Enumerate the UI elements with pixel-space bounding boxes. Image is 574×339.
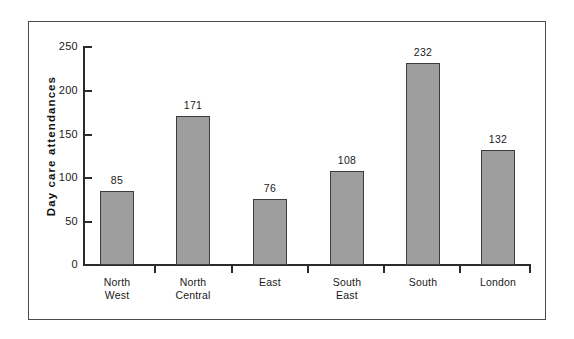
y-tick-100	[83, 177, 92, 179]
y-tick-label-200: 200	[44, 85, 78, 96]
x-label-north-central: North Central	[166, 276, 220, 302]
y-tick-label-250: 250	[44, 41, 78, 52]
x-tick-sep-3	[307, 264, 309, 273]
y-axis-line	[83, 47, 85, 266]
x-tick-sep-end	[529, 264, 531, 273]
bar-value-east: 76	[248, 183, 292, 194]
bar-south[interactable]	[406, 63, 440, 265]
bar-north-central[interactable]	[176, 116, 210, 265]
x-label-north-west-line1: North	[92, 276, 142, 289]
bar-value-north-west: 85	[95, 175, 139, 186]
x-label-south-line1: South	[398, 276, 448, 289]
y-axis-title: Day care attendances	[45, 51, 57, 241]
bar-value-north-central: 171	[171, 100, 215, 111]
x-label-south: South	[398, 276, 448, 289]
bar-south-east[interactable]	[330, 171, 364, 265]
y-tick-label-150: 150	[44, 129, 78, 140]
bar-north-west[interactable]	[100, 191, 134, 265]
bar-value-london: 132	[476, 134, 520, 145]
y-tick-label-50: 50	[44, 216, 78, 227]
y-tick-label-0: 0	[44, 259, 78, 270]
x-label-north-central-line1: North	[166, 276, 220, 289]
y-tick-50	[83, 221, 92, 223]
x-tick-sep-5	[459, 264, 461, 273]
x-label-east-line1: East	[245, 276, 295, 289]
plot-area: Day care attendances 0 50 100 150 200 25…	[0, 0, 574, 339]
y-tick-150	[83, 134, 92, 136]
x-label-south-east-line2: East	[322, 289, 372, 302]
y-tick-0	[83, 264, 92, 266]
y-tick-200	[83, 90, 92, 92]
x-label-north-west-line2: West	[92, 289, 142, 302]
x-label-north-west: North West	[92, 276, 142, 302]
x-label-south-east: South East	[322, 276, 372, 302]
x-label-north-central-line2: Central	[166, 289, 220, 302]
bar-london[interactable]	[481, 150, 515, 265]
bar-value-south: 232	[401, 47, 445, 58]
x-tick-sep-2	[231, 264, 233, 273]
x-tick-sep-1	[154, 264, 156, 273]
y-tick-250	[83, 46, 92, 48]
bar-value-south-east: 108	[325, 155, 369, 166]
y-tick-label-100: 100	[44, 172, 78, 183]
x-label-london: London	[473, 276, 523, 289]
bar-east[interactable]	[253, 199, 287, 265]
x-label-east: East	[245, 276, 295, 289]
x-label-south-east-line1: South	[322, 276, 372, 289]
x-tick-sep-4	[383, 264, 385, 273]
x-label-london-line1: London	[473, 276, 523, 289]
chart-figure: Day care attendances 0 50 100 150 200 25…	[0, 0, 574, 339]
